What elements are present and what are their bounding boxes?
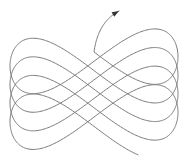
figure-canvas bbox=[0, 0, 188, 168]
spiral-figure-eight-curve bbox=[10, 11, 178, 155]
arrowhead-icon bbox=[112, 11, 119, 17]
